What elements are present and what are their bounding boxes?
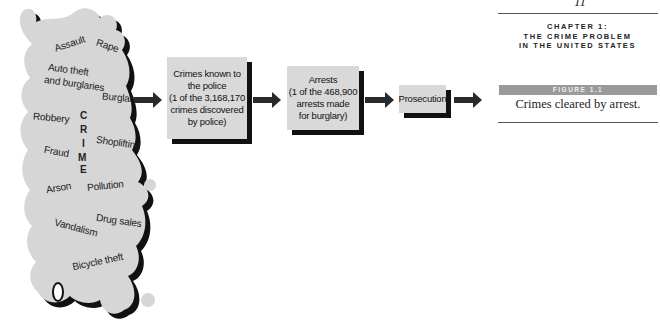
box-line: (1 of the 468,900 — [289, 86, 357, 98]
box-line: by police) — [169, 116, 245, 128]
chapter-heading: CHAPTER 1: THE CRIME PROBLEM IN THE UNIT… — [500, 22, 655, 51]
page-number: 11 — [560, 0, 600, 10]
flow-box-prosecution: Prosecution — [399, 85, 446, 113]
figure-caption: Crimes cleared by arrest. — [499, 97, 657, 112]
box-line: arrests made — [289, 98, 357, 110]
arrow-right-icon — [454, 97, 474, 103]
crime-letter-e: E — [80, 164, 87, 175]
box-line: Crimes known to — [169, 68, 245, 80]
flow-box-arrests: Arrests (1 of the 468,900 arrests made f… — [287, 66, 359, 130]
box-line: the police — [169, 80, 245, 92]
crime-letter-m: M — [78, 152, 86, 163]
figure-label: FIGURE 1.1 — [499, 85, 657, 95]
crime-letter-c: C — [80, 110, 87, 121]
arrow-right-icon — [365, 97, 386, 103]
flow-box-crimes-known: Crimes known to the police (1 of the 3,1… — [167, 57, 247, 139]
crime-letter-r: R — [80, 124, 87, 135]
box-line: crimes discovered — [169, 104, 245, 116]
chapter-line: IN THE UNITED STATES — [500, 41, 655, 51]
arrow-right-icon — [134, 97, 154, 103]
box-line: for burglary) — [289, 110, 357, 122]
box-line: Arrests — [289, 74, 357, 86]
divider — [498, 13, 658, 14]
box-line: Prosecution — [399, 93, 447, 105]
divider — [498, 122, 658, 123]
chapter-line: CHAPTER 1: — [500, 22, 655, 32]
chapter-line: THE CRIME PROBLEM — [500, 32, 655, 42]
crime-letter-i: I — [82, 138, 85, 149]
arrow-right-icon — [253, 97, 273, 103]
box-line: (1 of the 3,168,170 — [169, 92, 245, 104]
